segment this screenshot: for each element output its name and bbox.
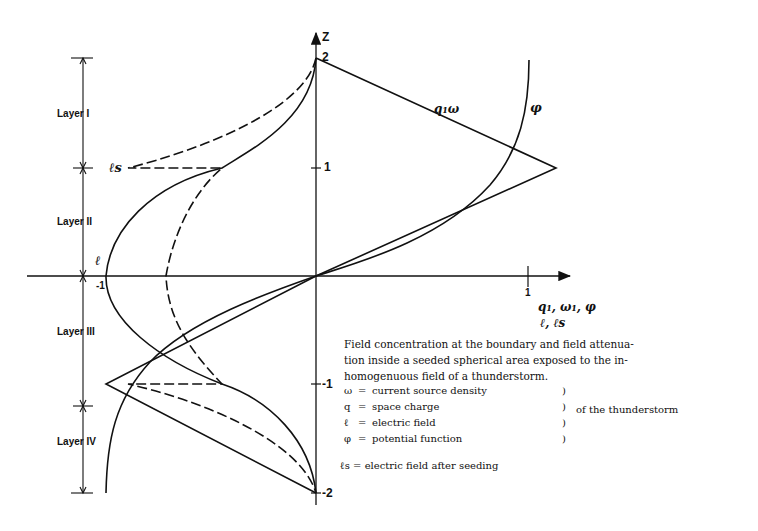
diagram-canvas: [0, 0, 758, 531]
layer-3-label: Layer III: [57, 326, 95, 337]
z-tick-neg2: -2: [322, 486, 333, 500]
legend-item: ω = current source density ): [344, 383, 572, 399]
field-seeded-label: ℓs: [109, 160, 122, 176]
q-omega-label: q₁ω: [434, 102, 459, 116]
z-tick-1: 1: [324, 160, 331, 174]
phi-label: φ: [530, 100, 542, 115]
z-tick-neg1: -1: [322, 377, 333, 391]
x-tick-1: 1: [525, 287, 531, 298]
legend-item: q = space charge ): [344, 399, 572, 415]
layer-2-label: Layer II: [57, 216, 92, 227]
z-tick-2: 2: [322, 50, 329, 64]
caption-line-2: tion inside a seeded spherical area expo…: [344, 352, 744, 368]
legend-seeded: ℓs = electric field after seeding: [340, 460, 498, 471]
legend-scope: of the thunderstorm: [576, 404, 678, 415]
field-label: ℓ: [95, 253, 101, 269]
caption-line-3: homogenuous field of a thunderstorm.: [344, 368, 744, 384]
x-tick-neg1: -1: [96, 280, 105, 291]
layer-4-label: Layer IV: [57, 436, 96, 447]
legend-item: ℓ = electric field ): [344, 415, 572, 431]
legend: ω = current source density ) q = space c…: [344, 383, 572, 447]
caption-line-1: Field concentration at the boundary and …: [344, 336, 744, 352]
z-axis-label: Z: [322, 30, 329, 44]
x-axis-label-1: q₁, ω₁, φ: [538, 300, 596, 314]
x-axis-label-2: ℓ, ℓs: [540, 316, 565, 331]
figure-caption: Field concentration at the boundary and …: [344, 336, 744, 384]
legend-item: φ = potential function ): [344, 431, 572, 447]
layer-1-label: Layer I: [57, 108, 89, 119]
